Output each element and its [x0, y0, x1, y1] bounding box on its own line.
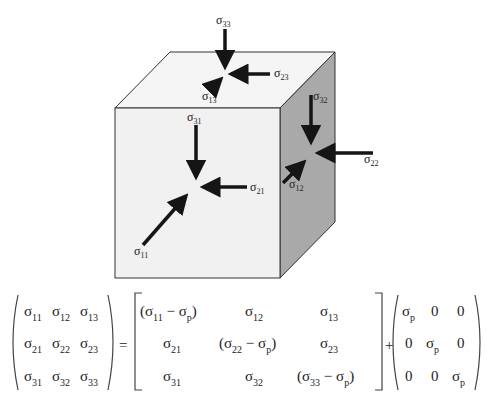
- svg-text:(σ11 − σp): (σ11 − σp): [140, 303, 197, 323]
- svg-text:0: 0: [457, 303, 465, 319]
- label-sigma-33: σ33: [216, 13, 230, 29]
- svg-text:(σ33 − σp): (σ33 − σp): [297, 368, 354, 388]
- svg-text:0: 0: [431, 303, 439, 319]
- svg-text:0: 0: [405, 368, 413, 384]
- svg-text:σp: σp: [426, 335, 439, 355]
- svg-text:σp: σp: [402, 303, 415, 323]
- svg-text:σ12: σ12: [245, 303, 263, 323]
- svg-text:σ33: σ33: [80, 368, 98, 388]
- svg-text:(σ22 − σp): (σ22 − σp): [219, 335, 276, 355]
- plus-sign: +: [385, 337, 393, 353]
- hydrostatic-matrix: σp 0 0 0 σp 0 0 0 σp: [402, 303, 465, 388]
- svg-text:σp: σp: [452, 368, 465, 388]
- deviatoric-matrix: (σ11 − σp) σ12 σ13 σ21 (σ22 − σp) σ23 σ3…: [140, 303, 354, 388]
- svg-text:0: 0: [457, 335, 465, 351]
- svg-text:σ12: σ12: [52, 303, 70, 323]
- svg-text:σ22: σ22: [52, 335, 70, 355]
- svg-text:σ13: σ13: [80, 303, 98, 323]
- stress-cube-diagram: σ33 σ23 σ13 σ32 σ22 σ12 σ31 σ21 σ11 σ11 …: [0, 0, 497, 408]
- svg-text:σ31: σ31: [24, 368, 42, 388]
- svg-text:0: 0: [431, 368, 439, 384]
- equals-sign: =: [119, 337, 127, 353]
- svg-text:σ11: σ11: [24, 303, 42, 323]
- lhs-matrix: σ11 σ12 σ13 σ21 σ22 σ23 σ31 σ32 σ33: [24, 303, 98, 388]
- svg-text:σ21: σ21: [24, 335, 42, 355]
- svg-text:σ23: σ23: [320, 335, 338, 355]
- svg-text:σ32: σ32: [245, 368, 263, 388]
- svg-text:σ21: σ21: [163, 335, 181, 355]
- svg-text:σ31: σ31: [163, 368, 181, 388]
- svg-text:0: 0: [405, 335, 413, 351]
- svg-text:σ23: σ23: [80, 335, 98, 355]
- svg-text:σ13: σ13: [320, 303, 338, 323]
- svg-text:σ32: σ32: [52, 368, 70, 388]
